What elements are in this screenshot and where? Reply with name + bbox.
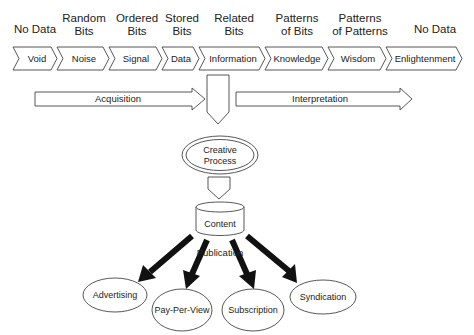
pay-per-view-label: Pay-Per-View bbox=[155, 305, 210, 315]
creative-process-line2: Process bbox=[204, 156, 237, 166]
advertising-label: Advertising bbox=[93, 290, 138, 300]
chevron-label-knowledge: Knowledge bbox=[273, 53, 320, 64]
chevron-label-void: Void bbox=[28, 53, 47, 64]
publication-label: Publication bbox=[197, 247, 243, 258]
down-arrow-small bbox=[208, 177, 230, 199]
chevron-label-enlightenment: Enlightenment bbox=[395, 53, 456, 64]
syndication-label: Syndication bbox=[300, 292, 347, 302]
data-to-content-diagram: Void Noise Signal Data Information Knowl… bbox=[0, 0, 474, 335]
down-arrow-main bbox=[207, 75, 229, 124]
content-cylinder-top bbox=[196, 202, 244, 212]
chevron-label-signal: Signal bbox=[123, 53, 149, 64]
interpretation-label: Interpretation bbox=[292, 93, 348, 104]
acquisition-label: Acquisition bbox=[95, 93, 141, 104]
creative-process-line1: Creative bbox=[203, 145, 237, 155]
chevron-label-information: Information bbox=[209, 53, 257, 64]
content-label: Content bbox=[204, 219, 236, 229]
chevron-label-wisdom: Wisdom bbox=[341, 53, 375, 64]
subscription-label: Subscription bbox=[228, 305, 278, 315]
chevron-label-noise: Noise bbox=[72, 53, 96, 64]
chevron-label-data: Data bbox=[171, 53, 192, 64]
